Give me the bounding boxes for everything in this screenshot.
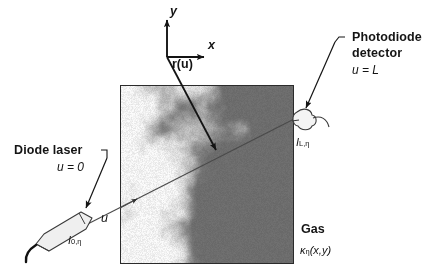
beam-parameter-label: u bbox=[101, 211, 108, 225]
diode-laser-body bbox=[26, 212, 92, 262]
figure-canvas: y x r(u) Diode laser u = 0 I0,η u Photod… bbox=[0, 0, 433, 270]
position-vector-label: r(u) bbox=[172, 57, 193, 71]
detector-position-label: u = L bbox=[352, 63, 379, 77]
coordinate-axes bbox=[167, 20, 204, 57]
gas-property-label: κη(x,y) bbox=[300, 240, 331, 258]
source-intensity-label: I0,η bbox=[68, 230, 82, 248]
photodiode-label-line1: Photodiode bbox=[352, 30, 422, 44]
photodiode-label-line2: detector bbox=[352, 46, 402, 60]
diode-laser-label: Diode laser bbox=[14, 143, 83, 157]
source-intensity-subscript: 0,η bbox=[71, 237, 81, 246]
detector-intensity-subscript: L,η bbox=[299, 139, 309, 148]
x-axis-label: x bbox=[208, 38, 215, 52]
leader-line-detector bbox=[306, 37, 345, 108]
gas-label: Gas bbox=[301, 222, 325, 236]
leader-line-laser bbox=[86, 150, 107, 208]
photodiode-detector-body bbox=[292, 109, 329, 130]
laser-position-label: u = 0 bbox=[57, 160, 84, 174]
beam-direction-arrow bbox=[120, 199, 137, 208]
absorption-coefficient-args: (x,y) bbox=[310, 244, 331, 256]
y-axis-label: y bbox=[170, 4, 177, 18]
detector-intensity-label: IL,η bbox=[296, 132, 310, 150]
laser-cable bbox=[26, 245, 36, 262]
